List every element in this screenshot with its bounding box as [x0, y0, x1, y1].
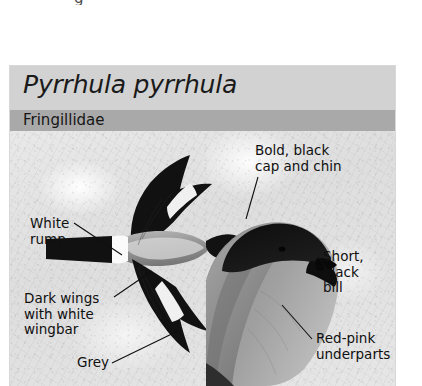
illustration-plate: Bold, black cap and chin White rump Dark…: [10, 131, 395, 386]
clipped-page-fragment: g: [74, 0, 98, 5]
perched-eye: [279, 246, 286, 251]
annotation-red-pink-underparts: Red-pink underparts: [316, 331, 390, 362]
annotation-short-black-bill: Short, black bill: [323, 249, 364, 296]
leader-cap-and-chin: [246, 177, 258, 219]
annotation-white-rump: White rump: [30, 216, 69, 247]
family-name: Fringillidae: [23, 111, 105, 129]
annotation-cap-and-chin: Bold, black cap and chin: [255, 143, 342, 174]
annotation-dark-wings: Dark wings with white wingbar: [24, 291, 99, 338]
annotation-grey-back: Grey: [77, 355, 109, 371]
family-band: Fringillidae: [10, 110, 395, 131]
species-card: Pyrrhula pyrrhula Fringillidae: [10, 66, 395, 386]
clipped-fragment-text: g: [74, 0, 98, 5]
leader-grey-back: [112, 329, 182, 363]
title-band: Pyrrhula pyrrhula: [10, 66, 395, 110]
species-name: Pyrrhula pyrrhula: [23, 70, 237, 99]
